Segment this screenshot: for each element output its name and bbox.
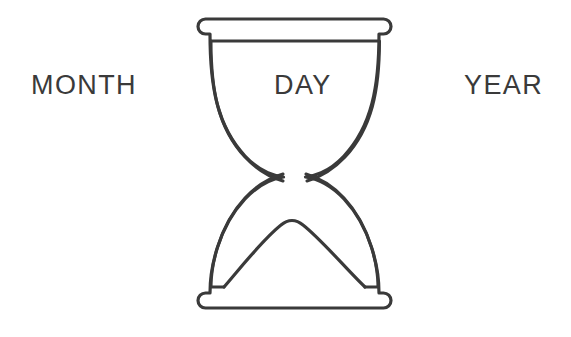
hourglass-outer-body-path — [198, 19, 391, 308]
hourglass-svg — [0, 0, 571, 337]
hourglass-illustration — [0, 0, 571, 337]
illustration-canvas: MONTH DAY YEAR — [0, 0, 571, 337]
label-year: YEAR — [464, 72, 543, 99]
label-day: DAY — [274, 72, 332, 99]
label-month: MONTH — [31, 72, 137, 99]
